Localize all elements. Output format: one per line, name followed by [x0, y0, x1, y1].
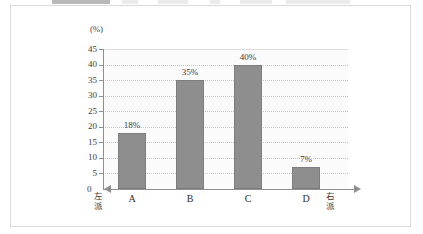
y-tick-mark-35 — [99, 80, 104, 81]
y-tick-label-35: 35 — [75, 76, 97, 85]
y-tick-mark-20 — [99, 127, 104, 128]
y-tick-label-20: 20 — [75, 122, 97, 131]
bar-value-C: 40% — [227, 52, 269, 62]
toolbar-ghost-item-1 — [122, 0, 138, 4]
y-tick-label-0: 0 — [87, 184, 92, 194]
axis-start-label-left-wing: 左派 — [93, 192, 104, 211]
y-tick-mark-10 — [99, 158, 104, 159]
gridline-35 — [103, 80, 348, 81]
bar-D[interactable] — [292, 167, 320, 189]
toolbar-ghost-item-4 — [240, 0, 272, 4]
y-tick-mark-15 — [99, 142, 104, 143]
axis-end-label-right-wing: 右派 — [325, 192, 336, 211]
y-tick-mark-5 — [99, 173, 104, 174]
bar-C[interactable] — [234, 65, 262, 189]
y-tick-label-25: 25 — [75, 107, 97, 116]
y-tick-label-45: 45 — [75, 45, 97, 54]
bar-value-B: 35% — [169, 67, 211, 77]
chart-card: (%) 45 40 — [10, 5, 411, 227]
gridline-40 — [103, 65, 348, 66]
category-label-D: D — [285, 193, 327, 204]
x-axis-arrow-right-icon — [354, 185, 361, 193]
bar-A[interactable] — [118, 133, 146, 189]
y-tick-label-40: 40 — [75, 60, 97, 69]
bar-value-A: 18% — [111, 120, 153, 130]
y-tick-label-5: 5 — [75, 169, 97, 178]
gridline-25 — [103, 111, 348, 112]
bar-chart: (%) 45 40 — [11, 6, 412, 228]
y-tick-mark-45 — [99, 49, 104, 50]
category-label-A: A — [111, 193, 153, 204]
y-tick-label-15: 15 — [75, 138, 97, 147]
y-tick-mark-25 — [99, 111, 104, 112]
gridline-45 — [103, 49, 348, 50]
category-label-C: C — [227, 193, 269, 204]
category-label-B: B — [169, 193, 211, 204]
y-tick-label-30: 30 — [75, 91, 97, 100]
x-axis-arrow-left-icon — [104, 185, 111, 193]
y-tick-mark-40 — [99, 65, 104, 66]
y-tick-mark-30 — [99, 96, 104, 97]
active-tab-indicator[interactable] — [52, 0, 110, 4]
toolbar-ghost-item-2 — [158, 0, 188, 4]
gridline-30 — [103, 96, 348, 97]
x-axis-line — [103, 189, 356, 190]
toolbar-ghost-item-5 — [286, 0, 350, 4]
toolbar-ghost-item-3 — [210, 0, 220, 4]
bar-B[interactable] — [176, 80, 204, 189]
y-axis-line — [103, 49, 104, 190]
y-tick-label-10: 10 — [75, 153, 97, 162]
bar-value-D: 7% — [285, 154, 327, 164]
